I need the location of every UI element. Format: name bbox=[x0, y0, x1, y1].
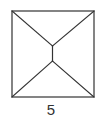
diagonal-top-left bbox=[12, 11, 53, 46]
square-diagram bbox=[0, 0, 102, 100]
figure-label: 5 bbox=[0, 102, 102, 118]
diagonal-bottom-left bbox=[12, 61, 53, 97]
diagonal-bottom-right bbox=[53, 61, 95, 97]
diagonal-top-right bbox=[53, 11, 95, 46]
